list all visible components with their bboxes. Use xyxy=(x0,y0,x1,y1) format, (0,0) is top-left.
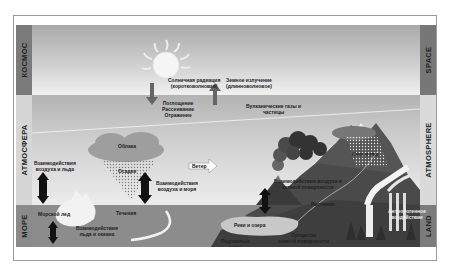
currents-label: Течения xyxy=(116,210,136,216)
absorption-label: Поглощение Рассеивание Отражение xyxy=(162,100,194,118)
sea-ice-label: Морской лед xyxy=(38,211,70,217)
earth-radiation-label: Земное излучение (длинноволновое) xyxy=(226,77,272,89)
ice-ocean-double-arrow-icon xyxy=(48,221,58,244)
air-ice-double-arrow-icon xyxy=(37,172,49,204)
solar-radiation-label: Солнечная радиация (коротковолновая) xyxy=(168,77,220,89)
label-space-en: SPACE xyxy=(420,25,436,95)
human-activity-label: Антропогенное воздействие xyxy=(388,208,426,220)
vegetation-label: Растения xyxy=(311,201,334,207)
volcanic-gases-label: Вулканические газы и частицы xyxy=(246,103,301,115)
label-atmosphere-ru: АТМОСФЕРА xyxy=(16,95,32,205)
clouds-label: Облака xyxy=(118,143,136,149)
air-sea-label: Взаимодействия воздуха и моря xyxy=(156,180,198,192)
ice-ocean-label: Взаимодействия льда и океана xyxy=(76,225,118,237)
air-land-label: Взаимодействия воздуха и земной поверхно… xyxy=(274,178,342,190)
sea-ice-icon xyxy=(56,190,96,227)
wind-label: Ветер xyxy=(192,163,207,169)
precipitation-label: Осадки xyxy=(118,168,136,174)
snow-ice-label: Снег и лед xyxy=(352,151,378,157)
absorption-arrow-icon xyxy=(146,83,158,105)
air-ice-label: Взаимодействия воздуха и льда xyxy=(34,160,76,172)
label-atmosphere-en: ATMOSPHERE xyxy=(420,95,436,205)
label-space-ru: КОСМОС xyxy=(16,25,32,95)
terrain-illustration xyxy=(16,25,436,247)
land-processes-label: Процессы земной поверхности xyxy=(278,232,329,244)
label-sea-ru: МОРЕ xyxy=(16,205,32,247)
climate-system-diagram: КОСМОС АТМОСФЕРА МОРЕ SPACE ATMOSPHERE L… xyxy=(16,25,436,247)
rivers-lakes-label: Реки и озера xyxy=(234,222,265,228)
ocean-current-icon xyxy=(131,211,170,240)
sun-icon xyxy=(142,40,190,78)
groundwater-label: Подземные воды xyxy=(221,238,250,247)
